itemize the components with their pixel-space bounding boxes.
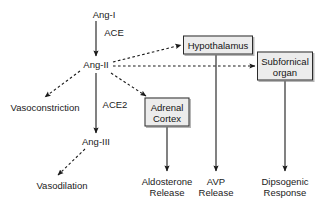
node-avp-release-line2: Release (199, 187, 234, 198)
edge-label-ace: ACE (104, 27, 124, 38)
box-adrenal-cortex[interactable]: Adrenal Cortex (145, 98, 190, 127)
node-aldosterone-release[interactable]: Aldosterone Release (142, 176, 193, 198)
box-hypothalamus[interactable]: Hypothalamus (183, 36, 253, 55)
node-vasodilation[interactable]: Vasodilation (36, 180, 87, 191)
edge-ang-iii-to-vasodilation (58, 149, 85, 175)
node-dipsogenic-response[interactable]: Dipsogenic Response (262, 176, 309, 198)
node-avp-release[interactable]: AVP Release (199, 176, 234, 198)
box-subfornical-organ[interactable]: Subfornical organ (257, 52, 313, 81)
node-vasoconstriction[interactable]: Vasoconstriction (11, 102, 80, 113)
node-avp-release-line1: AVP (199, 176, 234, 187)
edge-ang-ii-to-hypothalamus (113, 45, 181, 62)
edge-ang-ii-to-vasoconstriction (45, 71, 80, 97)
box-subfornical-organ-label-line2: organ (273, 66, 297, 77)
box-adrenal-cortex-label-line1: Adrenal (151, 101, 184, 112)
node-ang-ii[interactable]: Ang-II (83, 59, 108, 70)
edge-ang-ii-to-adrenal-cortex (111, 73, 146, 96)
box-hypothalamus-label: Hypothalamus (188, 40, 249, 51)
node-aldosterone-release-line1: Aldosterone (142, 176, 193, 187)
node-dipsogenic-response-line2: Response (262, 187, 309, 198)
edge-label-ace2: ACE2 (103, 99, 128, 110)
node-ang-iii[interactable]: Ang-III (82, 136, 110, 147)
node-ang-i[interactable]: Ang-I (93, 9, 116, 20)
diagram-canvas: Ang-I Ang-II Ang-III Vasoconstriction Va… (0, 0, 317, 206)
box-adrenal-cortex-label-line2: Cortex (153, 112, 181, 123)
node-aldosterone-release-line2: Release (142, 187, 193, 198)
box-subfornical-organ-label-line1: Subfornical (261, 55, 309, 66)
node-dipsogenic-response-line1: Dipsogenic (262, 176, 309, 187)
